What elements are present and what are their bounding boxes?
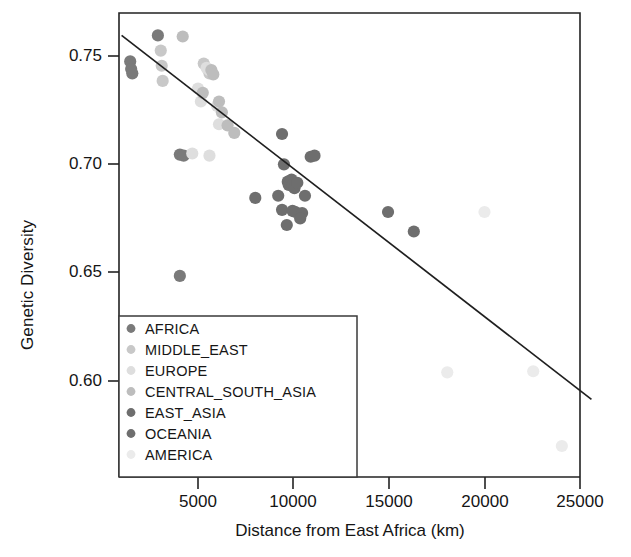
y-tick-label-070: 0.70 [34, 154, 102, 174]
data-point [527, 365, 539, 377]
data-point [382, 206, 394, 218]
data-point [213, 95, 225, 107]
legend-marker-east-asia-icon [127, 408, 136, 417]
data-point [276, 204, 288, 216]
legend-label-oceania: OCEANIA [145, 426, 212, 442]
data-point [197, 87, 209, 99]
y-axis-ticks [108, 56, 119, 381]
x-tick-label-25000: 25000 [536, 492, 624, 512]
data-point [291, 177, 303, 189]
legend-label-east-asia: EAST_ASIA [145, 405, 226, 421]
data-point [203, 150, 215, 162]
data-point [186, 147, 198, 159]
legend-label-europe: EUROPE [145, 363, 207, 379]
y-tick-label-075: 0.75 [34, 46, 102, 66]
x-tick-label-20000: 20000 [441, 492, 529, 512]
series-oceania [382, 206, 420, 238]
y-tick-label-065: 0.65 [34, 262, 102, 282]
data-point [207, 68, 219, 80]
x-tick-label-15000: 15000 [345, 492, 433, 512]
data-point [155, 44, 167, 56]
legend-marker-europe-icon [127, 366, 136, 375]
data-point [228, 127, 240, 139]
legend-marker-america-icon [127, 450, 136, 459]
legend-marker-oceania-icon [127, 429, 136, 438]
data-point [408, 225, 420, 237]
data-point [308, 150, 320, 162]
data-point [478, 206, 490, 218]
x-axis-title: Distance from East Africa (km) [200, 521, 500, 541]
y-axis-title: Genetic Diversity [18, 220, 38, 350]
data-point [157, 75, 169, 87]
data-point [276, 128, 288, 140]
data-point [556, 440, 568, 452]
data-point [272, 190, 284, 202]
legend-marker-africa-icon [127, 324, 136, 333]
data-point [294, 212, 306, 224]
data-point [177, 30, 189, 42]
data-point [441, 366, 453, 378]
data-point [281, 219, 293, 231]
data-point [249, 192, 261, 204]
y-tick-label-060: 0.60 [34, 371, 102, 391]
x-tick-label-5000: 5000 [158, 492, 238, 512]
legend-marker-middle-east-icon [127, 345, 136, 354]
legend-marker-central-south-asia-icon [127, 387, 136, 396]
scatter-plot-figure: Genetic Diversity Distance from East Afr… [0, 0, 631, 557]
x-tick-label-10000: 10000 [249, 492, 337, 512]
data-point [152, 29, 164, 41]
data-point [174, 270, 186, 282]
legend-label-central-south-asia: CENTRAL_SOUTH_ASIA [145, 384, 316, 400]
data-point [126, 67, 138, 79]
legend-label-middle-east: MIDDLE_EAST [145, 342, 248, 358]
x-axis-ticks [198, 477, 580, 489]
series-america [441, 206, 568, 452]
legend-label-africa: AFRICA [145, 321, 199, 337]
legend-label-america: AMERICA [145, 447, 212, 463]
data-point [299, 190, 311, 202]
